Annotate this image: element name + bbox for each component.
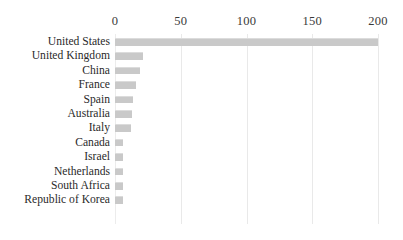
category-label: Republic of Korea <box>24 193 110 207</box>
bar <box>115 67 140 75</box>
bar <box>115 96 133 104</box>
x-tick-label: 150 <box>303 14 322 28</box>
bar <box>115 153 123 161</box>
bar-row: Canada <box>115 136 378 150</box>
bar <box>115 38 378 46</box>
x-tick-label: 100 <box>237 14 256 28</box>
x-axis-tick-labels: 050100150200 <box>0 14 403 34</box>
category-label: Italy <box>89 121 110 135</box>
x-tick-label: 0 <box>112 14 118 28</box>
bar <box>115 139 123 147</box>
category-label: South Africa <box>51 179 110 193</box>
category-label: China <box>82 64 110 78</box>
bar <box>115 196 123 204</box>
bar-row: South Africa <box>115 179 378 193</box>
bar <box>115 110 132 118</box>
bar-row: Australia <box>115 107 378 121</box>
category-label: France <box>78 78 110 92</box>
category-label: Canada <box>75 136 110 150</box>
category-label: Spain <box>84 93 110 107</box>
x-tick-label: 50 <box>174 14 187 28</box>
bar <box>115 124 131 132</box>
bar-row: United States <box>115 35 378 49</box>
bar-row: United Kingdom <box>115 49 378 63</box>
bar-row: Spain <box>115 93 378 107</box>
category-label: United States <box>48 35 110 49</box>
bar-row: China <box>115 64 378 78</box>
plot-area: United StatesUnited KingdomChinaFranceSp… <box>115 34 378 224</box>
bar-chart: 050100150200 United StatesUnited Kingdom… <box>0 0 403 240</box>
category-label: Netherlands <box>54 165 110 179</box>
bar <box>115 52 143 60</box>
bar <box>115 168 123 176</box>
category-label: United Kingdom <box>32 49 110 63</box>
bar-row: Italy <box>115 121 378 135</box>
x-tick-label: 200 <box>368 14 387 28</box>
bar <box>115 81 136 89</box>
gridline <box>378 34 379 224</box>
bar <box>115 182 123 190</box>
bar-row: France <box>115 78 378 92</box>
bar-row: Republic of Korea <box>115 193 378 207</box>
category-label: Australia <box>68 107 111 121</box>
bar-row: Israel <box>115 150 378 164</box>
category-label: Israel <box>84 150 110 164</box>
bar-row: Netherlands <box>115 165 378 179</box>
